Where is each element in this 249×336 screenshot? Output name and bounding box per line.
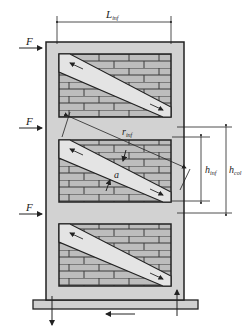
- foundation-beam: [33, 300, 198, 309]
- svg-text:F: F: [25, 35, 33, 47]
- l-inf-dimension: Linf: [57, 8, 171, 44]
- svg-text:F: F: [25, 201, 33, 213]
- strut-width-label: a: [114, 169, 119, 180]
- l-inf-label: Linf: [105, 8, 120, 21]
- infilled-frame-diagram: a rinf Linf hinf hcol F: [0, 0, 249, 336]
- svg-text:F: F: [25, 115, 33, 127]
- h-col-label: hcol: [229, 164, 242, 176]
- lateral-force-2: F: [19, 115, 42, 128]
- infill-panel-top: [59, 54, 171, 117]
- infill-panel-middle: a: [59, 140, 171, 202]
- infill-panel-bottom: [59, 224, 171, 286]
- lateral-force-1: F: [19, 35, 42, 48]
- h-inf-label: hinf: [205, 164, 218, 176]
- lateral-force-3: F: [19, 201, 42, 214]
